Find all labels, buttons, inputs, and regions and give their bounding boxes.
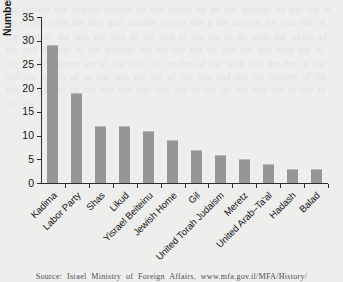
y-axis-tick: 20 xyxy=(37,88,41,89)
y-axis-tick: 35 xyxy=(37,17,41,18)
x-axis-tick xyxy=(65,184,66,188)
y-axis-tick: 25 xyxy=(37,64,41,65)
y-axis-tick-label: 5 xyxy=(12,153,34,165)
x-axis-tick xyxy=(89,184,90,188)
y-axis-line xyxy=(41,17,42,184)
y-axis-tick: 15 xyxy=(37,112,41,113)
y-axis-tick: 0 xyxy=(37,183,41,184)
y-axis-tick-label: 25 xyxy=(12,58,34,70)
bar xyxy=(47,45,58,183)
x-axis-tick xyxy=(232,184,233,188)
x-axis-tick xyxy=(280,184,281,188)
bar xyxy=(311,169,322,183)
y-axis-tick-label: 35 xyxy=(12,11,34,23)
plot-area: 05101520253035 xyxy=(41,17,328,184)
bar xyxy=(191,150,202,183)
x-axis-tick xyxy=(137,184,138,188)
y-axis-tick-label: 0 xyxy=(12,177,34,189)
bar xyxy=(119,126,130,183)
x-axis-tick xyxy=(113,184,114,188)
x-axis-tick xyxy=(208,184,209,188)
bar xyxy=(215,155,226,183)
source-note: Source: Israel Ministry of Foreign Affai… xyxy=(0,272,343,281)
bar-chart-figure: Number of Seats 05101520253035 KadimaLab… xyxy=(0,0,343,282)
y-axis-tick: 5 xyxy=(37,159,41,160)
x-axis-tick xyxy=(185,184,186,188)
bar xyxy=(167,140,178,183)
bar xyxy=(239,159,250,183)
bar xyxy=(263,164,274,183)
y-axis-tick-label: 20 xyxy=(12,82,34,94)
bar xyxy=(95,126,106,183)
x-axis-tick xyxy=(256,184,257,188)
bar xyxy=(71,93,82,183)
y-axis-tick-label: 15 xyxy=(12,105,34,117)
x-axis-tick xyxy=(161,184,162,188)
y-axis-tick-label: 30 xyxy=(12,34,34,46)
x-axis-tick xyxy=(328,184,329,188)
bar xyxy=(287,169,298,183)
y-axis-tick: 10 xyxy=(37,136,41,137)
y-axis-tick: 30 xyxy=(37,41,41,42)
x-axis-tick xyxy=(304,184,305,188)
bar xyxy=(143,131,154,183)
y-axis-tick-label: 10 xyxy=(12,129,34,141)
